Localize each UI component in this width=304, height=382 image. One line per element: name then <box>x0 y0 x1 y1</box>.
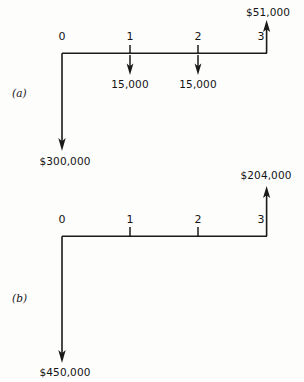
panel-a-outflow-0-label: $300,000 <box>25 155 105 167</box>
panel-a-inflow-3-label: $51,000 <box>228 6 304 18</box>
panel-b-tick-label-0: 0 <box>52 213 72 226</box>
panel-a-tick-label-0: 0 <box>52 30 72 43</box>
panel-b-label: (b) <box>12 292 27 304</box>
panel-b-drawing <box>58 186 270 363</box>
panel-a-outflow-2-label: 15,000 <box>158 78 238 90</box>
cash-flow-drawing <box>0 0 304 382</box>
panel-a-tick-label-1: 1 <box>120 30 140 43</box>
panel-b-tick-label-3: 3 <box>251 213 271 226</box>
panel-b-outflow-0-label: $450,000 <box>25 366 105 378</box>
panel-a-tick-label-2: 2 <box>188 30 208 43</box>
panel-a-tick-label-3: 3 <box>251 30 271 43</box>
cash-flow-figure: (a) 0 1 2 3 $51,000 15,000 15,000 $300,0… <box>0 0 304 382</box>
panel-b-tick-label-1: 1 <box>120 213 140 226</box>
panel-b-inflow-3-label: $204,000 <box>226 169 304 181</box>
panel-b-tick-label-2: 2 <box>188 213 208 226</box>
panel-a-label: (a) <box>12 87 27 99</box>
